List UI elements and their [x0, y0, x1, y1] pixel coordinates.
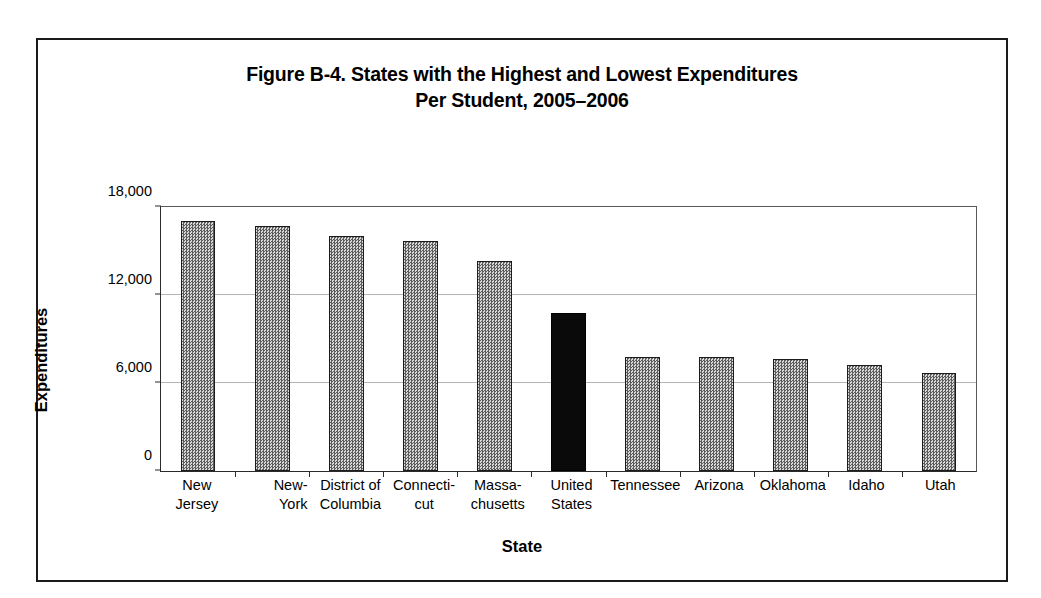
- x-tick-label-line-2: chusetts: [461, 495, 535, 514]
- y-tick-label: 18,000: [108, 183, 152, 199]
- bar-slot: [902, 207, 976, 471]
- bar: [329, 236, 364, 471]
- x-tick-label-line-1: New-: [274, 477, 308, 493]
- figure-frame: Figure B-4. States with the Highest and …: [36, 38, 1008, 582]
- x-tick-label-line-1: New: [182, 477, 211, 493]
- y-tick-label: 0: [144, 447, 152, 463]
- y-tick-label: 12,000: [108, 271, 152, 287]
- y-axis-title: Expenditures: [32, 235, 51, 485]
- bar: [181, 221, 216, 471]
- bar-slot: [606, 207, 680, 471]
- x-tick-label-line-1: District of: [320, 477, 380, 493]
- x-tick-label-line-1: Massa-: [474, 477, 522, 493]
- chart-title-line-2: Per Student, 2005–2006: [38, 88, 1006, 114]
- x-tick-label: Idaho: [830, 476, 904, 513]
- x-axis-title: State: [38, 537, 1006, 556]
- x-tick-label: Connecti-cut: [387, 476, 461, 513]
- bar: [922, 373, 957, 471]
- x-tick-label: NewJersey: [160, 476, 234, 513]
- bar-slot: [828, 207, 902, 471]
- x-tick-label-line-2: Columbia: [313, 495, 387, 514]
- bar-slot: [309, 207, 383, 471]
- x-tick-label: District ofColumbia: [313, 476, 387, 513]
- bar-series: [161, 207, 976, 471]
- bar-slot: [457, 207, 531, 471]
- bar-slot: [383, 207, 457, 471]
- x-tick-label-line-1: Oklahoma: [760, 477, 826, 493]
- bar-slot: [680, 207, 754, 471]
- chart-title: Figure B-4. States with the Highest and …: [38, 62, 1006, 113]
- bar: [847, 365, 882, 471]
- x-tick-label: UnitedStates: [535, 476, 609, 513]
- bar-slot: [754, 207, 828, 471]
- bar: [477, 261, 512, 471]
- bar: [773, 359, 808, 471]
- x-tick-label-line-2: York: [234, 495, 308, 514]
- x-tick-label-line-1: Tennessee: [610, 477, 680, 493]
- bar-slot: [161, 207, 235, 471]
- x-tick-label: Arizona: [682, 476, 756, 513]
- x-tick-label-line-2: States: [535, 495, 609, 514]
- bar: [625, 357, 660, 471]
- x-tick-label: Tennessee: [608, 476, 682, 513]
- y-tick-label: 6,000: [116, 359, 152, 375]
- x-tick-label: Oklahoma: [756, 476, 830, 513]
- chart-title-line-1: Figure B-4. States with the Highest and …: [38, 62, 1006, 88]
- bar: [403, 241, 438, 471]
- plot-area: 06,00012,00018,000: [160, 206, 977, 472]
- x-tick-label-line-1: Arizona: [694, 477, 743, 493]
- bar-slot: [235, 207, 309, 471]
- x-axis-category-labels: NewJerseyNew-YorkDistrict ofColumbiaConn…: [160, 476, 977, 513]
- x-tick-label: New-York: [234, 476, 314, 513]
- bar-slot: [531, 207, 605, 471]
- bar: [551, 313, 586, 471]
- bar: [255, 226, 290, 471]
- x-tick-label-line-1: United: [551, 477, 593, 493]
- x-tick-label: Utah: [903, 476, 977, 513]
- bar: [699, 357, 734, 471]
- x-tick-label-line-1: Utah: [925, 477, 956, 493]
- x-tick-label-line-2: Jersey: [160, 495, 234, 514]
- x-tick-label-line-1: Connecti-: [393, 477, 455, 493]
- x-tick-label-line-2: cut: [387, 495, 461, 514]
- x-tick-label: Massa-chusetts: [461, 476, 535, 513]
- x-tick-label-line-1: Idaho: [848, 477, 884, 493]
